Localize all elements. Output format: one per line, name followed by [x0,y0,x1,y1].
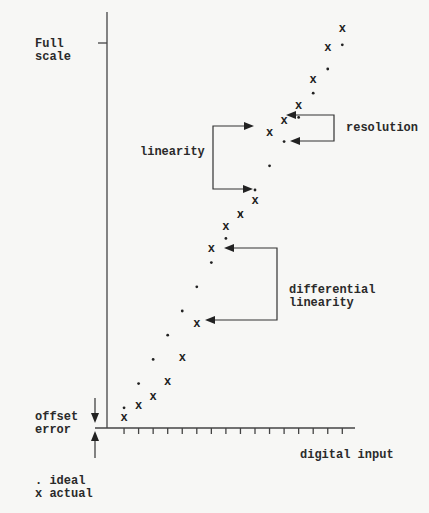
actual-point: x [251,194,258,208]
ideal-point [152,358,155,361]
ideal-point [283,140,286,143]
x-ticks [124,428,342,434]
differential-linearity-label-2: linearity [289,296,354,310]
ideal-point [254,189,257,192]
actual-point: x [150,390,157,404]
ideal-point [297,116,300,119]
dac-transfer-diagram: xxxxxxxxxxxxxxxx Full scale resolution l… [0,0,429,513]
legend-actual: x actual [35,487,93,501]
linearity-bracket [213,122,254,193]
ideal-point [341,43,344,46]
legend-ideal: . ideal [35,474,85,488]
offset-error-label: offset [35,410,78,424]
actual-point: x [339,22,346,36]
ideal-point [195,285,198,288]
actual-point: x [237,208,244,222]
linearity-label: linearity [140,145,205,159]
ideal-point [268,164,271,167]
ideal-points [123,43,344,409]
x-axis-label: digital input [300,448,394,462]
differential-linearity-label: differential [289,283,375,297]
full-scale-label-2: scale [35,50,71,64]
ideal-point [210,261,213,264]
actual-point: x [266,126,273,140]
resolution-bracket [286,111,334,145]
actual-point: x [179,351,186,365]
actual-point: x [222,220,229,234]
actual-point: x [324,41,331,55]
ideal-point [137,382,140,385]
actual-points: xxxxxxxxxxxxxxxx [120,22,345,426]
ideal-point [166,334,169,337]
ideal-point [326,68,329,71]
ideal-point [123,406,126,409]
ideal-point [181,310,184,313]
actual-point: x [208,242,215,256]
actual-point: x [295,99,302,113]
ideal-point [312,92,315,95]
resolution-label: resolution [346,121,418,135]
actual-point: x [193,317,200,331]
ideal-point [225,237,228,240]
actual-point: x [164,375,171,389]
actual-point: x [310,73,317,87]
full-scale-label: Full [35,37,64,51]
actual-point: x [280,114,287,128]
differential-linearity-bracket [205,244,277,324]
actual-point: x [135,399,142,413]
offset-error-label-2: error [35,423,71,437]
actual-point: x [120,411,127,425]
